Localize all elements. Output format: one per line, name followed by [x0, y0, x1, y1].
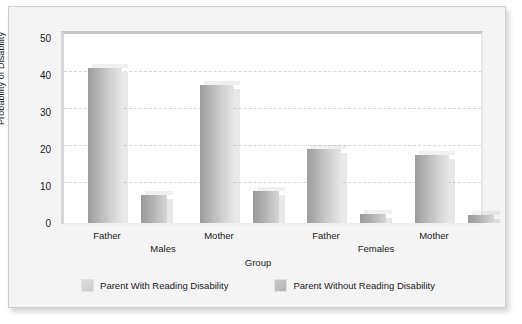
- legend-item-without-reading-disability[interactable]: Parent Without Reading Disability: [274, 279, 435, 292]
- bar-shadow-right: [386, 218, 392, 223]
- y-tick-label-10: 10: [25, 181, 51, 192]
- bar-males-mother-with-reading-disability: [200, 85, 234, 223]
- y-tick-label-0: 0: [25, 218, 51, 229]
- x-tick-label-females-mother: Mother: [404, 230, 464, 241]
- bar-face: [415, 155, 449, 223]
- bar-males-mother-without-reading-disability: [253, 191, 279, 223]
- bar-females-father-with-reading-disability: [307, 149, 341, 223]
- bar-shadow-right: [494, 219, 500, 223]
- bar-shadow-right: [279, 195, 285, 223]
- y-tick-label-40: 40: [25, 70, 51, 81]
- bar-face: [307, 149, 341, 223]
- bar-shadow-right: [341, 153, 347, 223]
- legend-swatch-with-reading-disability: [81, 279, 94, 292]
- bar-shadow-right: [167, 199, 173, 223]
- bar-face: [253, 191, 279, 223]
- bar-shadow-right: [122, 72, 128, 223]
- legend-label-with-reading-disability: Parent With Reading Disability: [100, 280, 228, 291]
- bar-shadow-right: [234, 89, 240, 223]
- bar-females-mother-without-reading-disability: [468, 215, 494, 223]
- bar-females-father-without-reading-disability: [360, 214, 386, 223]
- legend-item-with-reading-disability[interactable]: Parent With Reading Disability: [81, 279, 228, 292]
- legend-swatch-without-reading-disability: [274, 279, 287, 292]
- y-axis-title: Probability of Disability: [0, 0, 6, 125]
- x-tick-label-males-father: Father: [77, 230, 137, 241]
- bar-females-mother-with-reading-disability: [415, 155, 449, 223]
- legend-label-without-reading-disability: Parent Without Reading Disability: [293, 280, 435, 291]
- bar-face: [88, 68, 122, 223]
- x-tick-label-females-father: Father: [296, 230, 356, 241]
- x-axis-title: Group: [9, 257, 507, 268]
- bar-face: [360, 214, 386, 223]
- plot-frame: [61, 31, 483, 225]
- x-group-label-males: Males: [133, 243, 193, 254]
- bar-males-father-without-reading-disability: [141, 195, 167, 223]
- y-tick-label-50: 50: [25, 33, 51, 44]
- bar-males-father-with-reading-disability: [88, 68, 122, 223]
- plot-area: [64, 34, 481, 223]
- x-group-label-females: Females: [341, 243, 411, 254]
- y-tick-label-20: 20: [25, 144, 51, 155]
- bar-face: [200, 85, 234, 223]
- chart-figure-panel: Probability of Disability 50 40 30 20 10…: [8, 6, 506, 308]
- bar-shadow-right: [449, 159, 455, 223]
- y-tick-label-30: 30: [25, 107, 51, 118]
- x-tick-label-males-mother: Mother: [189, 230, 249, 241]
- chart-legend: Parent With Reading Disability Parent Wi…: [9, 279, 507, 292]
- bar-face: [141, 195, 167, 223]
- bar-face: [468, 215, 494, 223]
